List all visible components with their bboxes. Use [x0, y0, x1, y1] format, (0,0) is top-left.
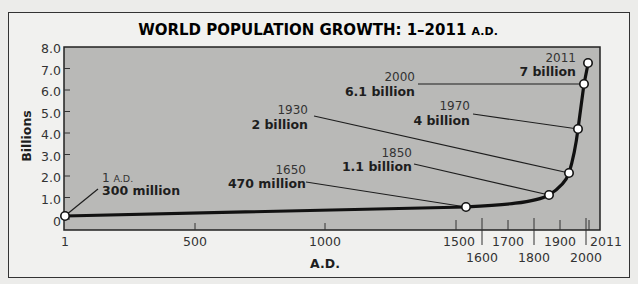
svg-text:1: 1 — [61, 234, 69, 249]
svg-text:2000: 2000 — [570, 250, 602, 265]
marker-1970 — [574, 125, 582, 133]
marker-1930 — [565, 169, 573, 177]
svg-text:1900: 1900 — [544, 234, 576, 249]
svg-text:2011: 2011 — [590, 234, 622, 249]
y-tick-labels: 0 1.0 2.0 3.0 4.0 5.0 6.0 7.0 8.0 — [41, 41, 61, 229]
svg-text:1800: 1800 — [518, 250, 550, 265]
svg-text:1970: 1970 — [439, 99, 470, 113]
svg-text:2011: 2011 — [545, 51, 576, 65]
population-chart: WORLD POPULATION GROWTH: 1–2011 A.D. 0 1… — [0, 0, 638, 284]
svg-text:1850: 1850 — [381, 146, 412, 160]
svg-text:0: 0 — [53, 214, 61, 229]
chart-title: WORLD POPULATION GROWTH: 1–2011 A.D. — [138, 21, 498, 39]
svg-text:470 million: 470 million — [228, 176, 306, 191]
marker-2011 — [584, 59, 592, 67]
svg-text:1700: 1700 — [492, 234, 524, 249]
svg-text:1500: 1500 — [443, 234, 475, 249]
svg-text:2 billion: 2 billion — [251, 117, 308, 132]
svg-text:7 billion: 7 billion — [519, 64, 576, 79]
svg-text:7.0: 7.0 — [41, 63, 61, 78]
x-tick-labels: 1 500 1000 1500 1700 1900 2011 1600 1800… — [61, 234, 622, 265]
svg-text:4.0: 4.0 — [41, 127, 61, 142]
svg-text:6.1 billion: 6.1 billion — [345, 84, 415, 99]
svg-text:2000: 2000 — [384, 70, 415, 84]
svg-text:1000: 1000 — [309, 234, 341, 249]
svg-text:300 million: 300 million — [102, 183, 180, 198]
svg-text:1600: 1600 — [466, 250, 498, 265]
y-axis-label: Billions — [19, 110, 34, 162]
marker-2000 — [580, 80, 588, 88]
x-axis-label: A.D. — [310, 256, 340, 271]
svg-text:1.0: 1.0 — [41, 192, 61, 207]
svg-text:6.0: 6.0 — [41, 84, 61, 99]
marker-1650 — [462, 203, 470, 211]
svg-text:500: 500 — [183, 234, 207, 249]
svg-text:5.0: 5.0 — [41, 106, 61, 121]
svg-text:1650: 1650 — [275, 163, 306, 177]
svg-text:1.1 billion: 1.1 billion — [342, 159, 412, 174]
svg-text:4 billion: 4 billion — [413, 113, 470, 128]
marker-1850 — [545, 191, 553, 199]
svg-text:3.0: 3.0 — [41, 149, 61, 164]
marker-1ad — [61, 212, 69, 220]
svg-text:2.0: 2.0 — [41, 170, 61, 185]
svg-text:1930: 1930 — [277, 103, 308, 117]
svg-text:8.0: 8.0 — [41, 41, 61, 56]
